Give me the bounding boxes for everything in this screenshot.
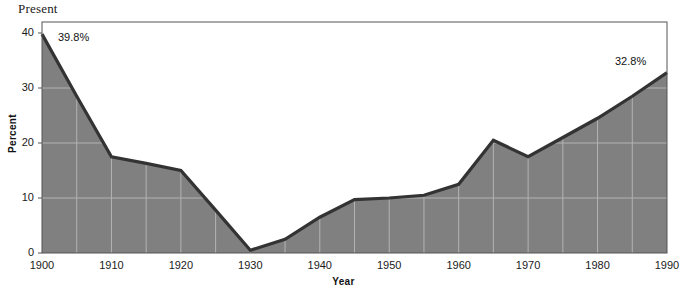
data-point-label: 32.8% (615, 55, 646, 67)
x-tick-label: 1960 (429, 259, 489, 271)
x-tick-label: 1930 (220, 259, 280, 271)
data-point-label: 39.8% (58, 31, 89, 43)
x-tick-label: 1900 (12, 259, 72, 271)
x-tick-label: 1950 (359, 259, 419, 271)
x-tick-label: 1920 (151, 259, 211, 271)
y-tick-label: 10 (0, 191, 34, 203)
plot-area (0, 0, 687, 295)
y-tick-label: 20 (0, 136, 34, 148)
x-tick-label: 1990 (637, 259, 687, 271)
x-tick-label: 1910 (81, 259, 141, 271)
x-tick-label: 1980 (568, 259, 628, 271)
chart-figure: Present Percent Year 0102030401900191019… (0, 0, 687, 295)
x-tick-label: 1940 (290, 259, 350, 271)
y-tick-label: 40 (0, 26, 34, 38)
x-tick-label: 1970 (498, 259, 558, 271)
y-tick-label: 30 (0, 81, 34, 93)
y-tick-label: 0 (0, 246, 34, 258)
